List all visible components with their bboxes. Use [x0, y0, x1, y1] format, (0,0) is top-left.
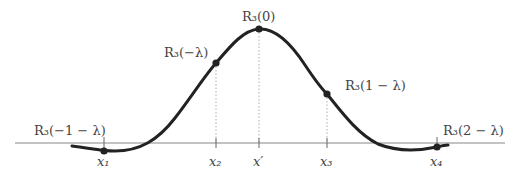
- sample-point-x2: [212, 59, 219, 66]
- sample-point-x3: [323, 90, 330, 97]
- tick-label-x4: x₄: [430, 154, 443, 169]
- kernel-diagram: R₃(−1 − λ) R₃(−λ) R₃(0) R₃(1 − λ) R₃(2 −…: [0, 0, 520, 180]
- sample-point-x4: [433, 143, 440, 150]
- label-r3-neg-lambda: R₃(−λ): [164, 45, 208, 60]
- tick-label-x3: x₃: [320, 154, 333, 169]
- label-r3-1-minus-lambda: R₃(1 − λ): [345, 78, 406, 93]
- tick-label-x2: x₂: [209, 154, 222, 169]
- sample-point-xprime: [255, 25, 262, 32]
- label-r3-2-minus-lambda: R₃(2 − λ): [443, 123, 504, 138]
- tick-label-x1: x₁: [97, 154, 110, 169]
- label-r3-neg1-minus-lambda: R₃(−1 − λ): [34, 123, 106, 138]
- label-r3-zero: R₃(0): [242, 9, 275, 24]
- tick-label-xprime: x′: [253, 154, 263, 169]
